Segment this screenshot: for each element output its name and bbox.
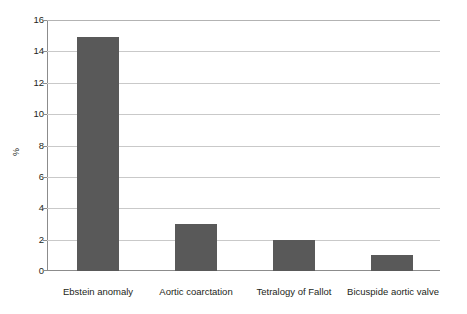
y-tick-label: 0 <box>4 266 44 276</box>
y-tick-mark <box>43 240 47 241</box>
y-tick-mark <box>43 270 47 271</box>
bar-ebstein-anomaly <box>77 37 119 271</box>
x-axis-category-label: Bicuspide aortic valve <box>320 286 466 298</box>
y-tick-label: 14 <box>4 46 44 56</box>
gridline-16 <box>47 20 440 21</box>
y-tick-label: 16 <box>4 15 44 25</box>
y-tick-mark <box>43 83 47 84</box>
y-tick-mark <box>43 51 47 52</box>
y-tick-label: 12 <box>4 78 44 88</box>
y-tick-mark <box>43 208 47 209</box>
bar-bicuspide-aortic-valve <box>371 255 413 271</box>
y-tick-mark <box>43 146 47 147</box>
bar-tetralogy-of-fallot <box>273 240 315 271</box>
bar-chart: % 16 14 12 10 8 6 4 2 0 <box>0 0 467 314</box>
bar-aortic-coarctation <box>175 224 217 271</box>
plot-area <box>47 20 440 271</box>
y-tick-label: 2 <box>4 235 44 245</box>
y-tick-label: 4 <box>4 203 44 213</box>
y-tick-label: 10 <box>4 109 44 119</box>
y-tick-mark <box>43 20 47 21</box>
y-tick-label: 6 <box>4 172 44 182</box>
y-axis-tick-labels: 16 14 12 10 8 6 4 2 0 <box>0 20 44 271</box>
y-tick-mark <box>43 114 47 115</box>
y-tick-mark <box>43 177 47 178</box>
y-tick-label: 8 <box>4 141 44 151</box>
